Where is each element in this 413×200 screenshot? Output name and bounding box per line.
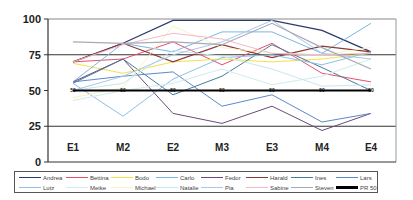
legend-label: Pia (225, 185, 234, 191)
legend-item-lars: Lars (336, 173, 372, 182)
legend-swatch (201, 187, 223, 188)
legend-swatch (156, 187, 178, 188)
legend-label: Bettina (90, 175, 109, 181)
y-tick-label: 25 (29, 120, 41, 132)
y-tick-label: 75 (29, 49, 41, 61)
line-chart: 50505050505050 0255075100 E1M2E2M3E3M4E4 (0, 0, 413, 168)
legend-swatch (66, 177, 88, 178)
legend-label: Meike (90, 185, 106, 191)
legend-swatch (19, 177, 41, 178)
x-tick-label: E3 (266, 142, 279, 153)
legend-swatch (336, 186, 358, 189)
legend-swatch (336, 177, 358, 178)
legend-swatch (291, 187, 313, 188)
legend-label: Natalie (180, 185, 199, 191)
legend-item-steven: Steven (291, 183, 334, 192)
legend-label: Carlo (180, 175, 194, 181)
pr50-point-label: 50 (120, 87, 126, 93)
y-axis-ticks: 0255075100 (23, 13, 48, 168)
series-line-pia (73, 20, 371, 90)
legend-item-meike: Meike (66, 183, 106, 192)
legend-item-bettina: Bettina (66, 173, 109, 182)
legend-label: Ines (315, 175, 326, 181)
legend-swatch (246, 187, 268, 188)
legend-label: Steven (315, 185, 334, 191)
pr50-point-label: 50 (70, 87, 76, 93)
legend-label: Lars (360, 175, 372, 181)
y-tick-label: 50 (29, 85, 41, 97)
legend-label: Bodo (135, 175, 149, 181)
pr50-point-label: 50 (170, 87, 176, 93)
legend-label: Michael (135, 185, 156, 191)
legend-swatch (246, 177, 268, 178)
legend-item-sabine: Sabine (246, 183, 289, 192)
x-tick-label: E1 (67, 142, 80, 153)
x-tick-label: M3 (215, 142, 229, 153)
legend-swatch (156, 177, 178, 178)
legend-item-pia: Pia (201, 183, 234, 192)
x-tick-label: E2 (167, 142, 180, 153)
series-line-andrea (73, 20, 371, 62)
pr50-point-label: 50 (319, 87, 325, 93)
x-tick-label: M2 (116, 142, 130, 153)
legend-item-pr-50: PR 50 (336, 183, 377, 192)
legend-item-michael: Michael (111, 183, 156, 192)
legend-swatch (66, 187, 88, 188)
pr50-point-label: 50 (368, 87, 374, 93)
pr50-point-label: 50 (219, 87, 225, 93)
series-line-natalie (73, 51, 371, 91)
y-tick-label: 0 (35, 156, 41, 168)
x-axis-labels: E1M2E2M3E3M4E4 (67, 142, 378, 153)
legend-label: Fedor (225, 175, 241, 181)
legend-swatch (291, 177, 313, 178)
legend-label: Sabine (270, 185, 289, 191)
pr50-point-label: 50 (269, 87, 275, 93)
legend-item-harald: Harald (246, 173, 288, 182)
legend-item-carlo: Carlo (156, 173, 194, 182)
series-lines: 50505050505050 (70, 20, 374, 130)
y-tick-label: 100 (23, 13, 41, 25)
legend-item-natalie: Natalie (156, 183, 199, 192)
legend-label: Andrea (43, 175, 62, 181)
legend-label: PR 50 (360, 185, 377, 191)
legend-swatch (201, 177, 223, 178)
legend-label: Harald (270, 175, 288, 181)
legend-swatch (111, 187, 133, 188)
legend-item-bodo: Bodo (111, 173, 149, 182)
legend-item-andrea: Andrea (19, 173, 62, 182)
legend-label: Lutz (43, 185, 54, 191)
legend-item-ines: Ines (291, 173, 326, 182)
legend-swatch (19, 187, 41, 188)
legend-item-lutz: Lutz (19, 183, 54, 192)
x-tick-label: E4 (365, 142, 378, 153)
legend: AndreaBettinaBodoCarloFedorHaraldInesLar… (14, 171, 378, 193)
x-tick-label: M4 (315, 142, 329, 153)
legend-swatch (111, 177, 133, 178)
legend-item-fedor: Fedor (201, 173, 241, 182)
series-line-lars (73, 72, 371, 122)
